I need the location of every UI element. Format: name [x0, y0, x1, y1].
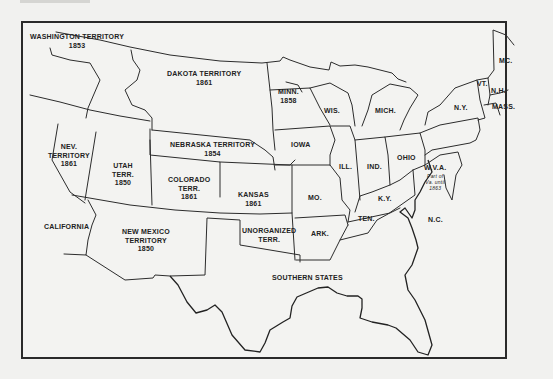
kansas-missouri-border [292, 165, 295, 260]
label-california: CALIFORNIA [44, 223, 89, 232]
maine-west-border [488, 30, 514, 78]
label-wisconsin: WIS. [324, 107, 340, 116]
label-vermont: VT. [477, 80, 488, 89]
utah-colorado-border [150, 140, 152, 205]
label-missouri: MO. [308, 194, 322, 203]
label-kansas: KANSAS1861 [238, 191, 269, 208]
pennsylvania-border [420, 118, 480, 155]
label-north-carolina: N.C. [428, 216, 443, 225]
tennessee-border [340, 170, 415, 240]
label-new-hampshire: N.H. [491, 87, 506, 96]
label-maine: MC. [499, 57, 512, 66]
label-michigan: MICH. [375, 107, 396, 116]
label-southern-states: SOUTHERN STATES [272, 274, 343, 283]
label-new-york: N.Y. [454, 104, 468, 113]
label-utah: UTAHTERR.1850 [112, 162, 134, 188]
label-unorganized: UNORGANIZEDTERR. [242, 227, 296, 244]
wisconsin-michigan-border [310, 83, 355, 126]
label-illinois: ILL. [339, 163, 352, 172]
label-indiana: IND. [367, 163, 382, 172]
label-iowa: IOWA [291, 141, 310, 150]
indiana-border [355, 137, 390, 185]
label-minnesota: MINN.1858 [278, 88, 299, 105]
label-new-mexico: NEW MEXICOTERRITORY1850 [122, 228, 170, 254]
label-arkansas: ARK. [311, 230, 329, 239]
ohio-border [385, 133, 425, 170]
label-nevada: NEV.TERRITORY1861 [48, 143, 90, 169]
oregon-north-border [30, 95, 150, 121]
label-massachusetts: MASS. [492, 103, 515, 112]
washington-east-border [50, 48, 100, 118]
dakota-east-border [267, 63, 275, 150]
nebraska-south-2 [220, 160, 295, 165]
label-washington: WASHINGTON TERRITORY1853 [30, 33, 124, 50]
label-dakota: DAKOTA TERRITORY1861 [167, 70, 241, 87]
label-tennessee: TEN. [358, 215, 375, 224]
kentucky-north [355, 170, 413, 212]
label-nebraska: NEBRASKA TERRITORY1854 [170, 141, 255, 158]
label-kentucky: K.Y. [378, 195, 392, 204]
map-borders [0, 0, 553, 379]
label-colorado: COLORADOTERR.1861 [168, 176, 210, 202]
arkansas-north [295, 215, 348, 225]
label-ohio: OHIO [397, 154, 416, 163]
label-west-virginia: W.V.A.Part ofVa. until1863 [424, 164, 446, 191]
